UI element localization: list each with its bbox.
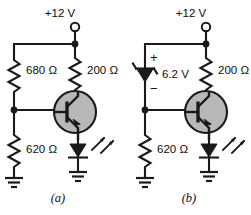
ground-symbol-right-a	[69, 172, 87, 181]
led-triangle-a	[70, 144, 86, 157]
supply-terminal-a	[71, 23, 79, 31]
resistor-620-b	[140, 133, 151, 172]
zener-bar-tick-left-b	[133, 64, 136, 69]
zener-label-b: 6.2 V	[162, 68, 189, 80]
zener-minus-sign-b: −	[150, 81, 158, 96]
resistor-680-label-a: 680 Ω	[26, 64, 57, 76]
circuit-a: +12 V 680 Ω 200 Ω 620 Ω (a)	[5, 7, 118, 205]
top-rail-a	[14, 44, 75, 58]
circuit-figure: +12 V 680 Ω 200 Ω 620 Ω (a)	[0, 0, 251, 215]
led-triangle-b	[201, 144, 217, 157]
zener-plus-sign-b: +	[150, 50, 158, 65]
ground-symbol-left-a	[5, 178, 23, 187]
supply-label-a: +12 V	[45, 7, 76, 19]
ground-symbol-right-b	[200, 172, 218, 181]
resistor-200-a	[70, 47, 81, 94]
led-emission-arrows-a	[92, 138, 114, 154]
caption-a: (a)	[51, 191, 66, 205]
caption-b: (b)	[182, 191, 197, 205]
resistor-620-label-a: 620 Ω	[26, 143, 57, 155]
resistor-200-label-b: 200 Ω	[218, 64, 249, 76]
supply-terminal-b	[202, 23, 210, 31]
ground-symbol-left-b	[136, 178, 154, 187]
resistor-200-b	[201, 47, 212, 94]
resistor-200-label-a: 200 Ω	[87, 64, 118, 76]
supply-label-b: +12 V	[176, 7, 207, 19]
zener-bar-tick-right-b	[154, 69, 157, 74]
resistor-680-a	[9, 58, 20, 95]
circuit-b: +12 V + − 6.2 V 200 Ω 620 Ω (b)	[133, 7, 249, 205]
resistor-620-a	[9, 133, 20, 172]
resistor-620-label-b: 620 Ω	[157, 143, 188, 155]
led-emission-arrows-b	[223, 138, 245, 154]
